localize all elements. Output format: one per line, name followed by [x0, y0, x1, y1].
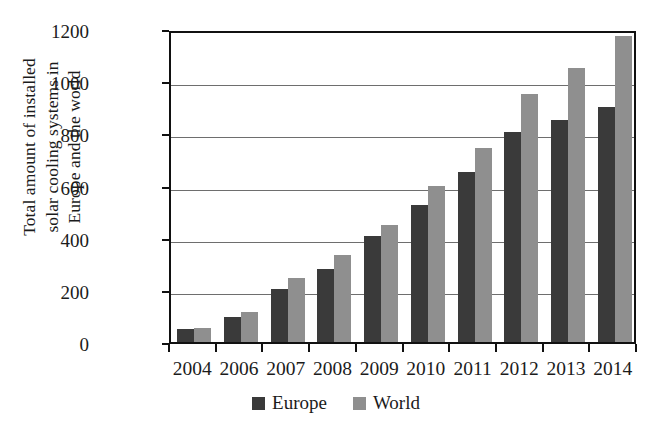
plot-area — [169, 31, 636, 344]
legend-label: World — [373, 392, 420, 414]
legend-swatch-icon — [252, 397, 265, 410]
x-tick-mark — [168, 344, 170, 352]
y-tick-mark — [162, 134, 169, 136]
legend-label: Europe — [272, 392, 327, 414]
x-tick-label-2014: 2014 — [583, 358, 643, 380]
x-tick-mark — [635, 344, 637, 352]
bar-world-2006 — [241, 312, 258, 342]
bar-world-2008 — [334, 255, 351, 342]
bar-europe-2006 — [224, 317, 241, 342]
bar-world-2007 — [288, 278, 305, 342]
bar-group — [171, 33, 218, 342]
x-tick-mark — [215, 344, 217, 352]
y-tick-label: 1200 — [19, 21, 89, 43]
bar-group — [264, 33, 311, 342]
y-tick-label: 800 — [19, 125, 89, 147]
bar-groups — [171, 33, 634, 342]
x-tick-mark — [261, 344, 263, 352]
bar-world-2013 — [568, 68, 585, 342]
x-tick-mark — [495, 344, 497, 352]
x-tick-mark — [308, 344, 310, 352]
legend-swatch-icon — [353, 397, 366, 410]
bar-group — [218, 33, 265, 342]
y-tick-label: 400 — [19, 230, 89, 252]
bar-group — [498, 33, 545, 342]
bar-group — [311, 33, 358, 342]
bar-world-2010 — [428, 186, 445, 343]
chart-legend: EuropeWorld — [0, 392, 672, 414]
x-tick-mark — [542, 344, 544, 352]
bar-europe-2011 — [458, 172, 475, 342]
bar-europe-2008 — [317, 269, 334, 342]
bar-chart-figure: Total amount of installed solar cooling … — [0, 0, 672, 433]
bar-group — [405, 33, 452, 342]
bar-world-2014 — [615, 36, 632, 342]
bar-world-2012 — [521, 94, 538, 342]
y-tick-mark — [162, 30, 169, 32]
legend-item-europe[interactable]: Europe — [252, 392, 327, 414]
x-tick-mark — [355, 344, 357, 352]
y-tick-mark — [162, 82, 169, 84]
bar-world-2004 — [194, 328, 211, 342]
y-tick-mark — [162, 239, 169, 241]
bar-group — [545, 33, 592, 342]
y-tick-label: 1000 — [19, 73, 89, 95]
y-tick-label: 200 — [19, 282, 89, 304]
bar-europe-2012 — [504, 132, 521, 342]
bar-world-2011 — [475, 148, 492, 342]
y-tick-label: 600 — [19, 178, 89, 200]
bar-europe-2009 — [364, 236, 381, 342]
bar-group — [358, 33, 405, 342]
bar-group — [451, 33, 498, 342]
y-tick-mark — [162, 187, 169, 189]
x-axis-ticks: 2004200620072008200920102011201220132014 — [0, 344, 672, 394]
y-tick-mark — [162, 291, 169, 293]
bar-group — [591, 33, 638, 342]
bar-europe-2014 — [598, 107, 615, 342]
bar-world-2009 — [381, 225, 398, 342]
legend-item-world[interactable]: World — [353, 392, 420, 414]
x-tick-mark — [448, 344, 450, 352]
x-tick-mark — [402, 344, 404, 352]
bar-europe-2004 — [177, 329, 194, 342]
x-tick-mark — [588, 344, 590, 352]
bar-europe-2007 — [271, 289, 288, 342]
bar-europe-2010 — [411, 205, 428, 342]
bar-europe-2013 — [551, 120, 568, 342]
